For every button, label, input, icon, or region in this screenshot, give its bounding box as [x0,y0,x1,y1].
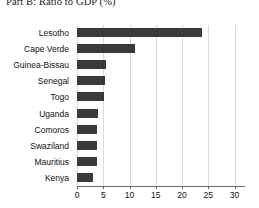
y-axis-tick-label: Swaziland [0,138,73,154]
x-axis-tick-label: 5 [93,190,113,200]
y-axis-tick-label: Lesotho [0,25,73,41]
bar [77,157,97,166]
bar-row [77,138,245,154]
y-axis-tick-label: Uganda [0,106,73,122]
bar [77,125,97,134]
x-axis-tick-mark [103,186,104,189]
x-axis-tick-label: 20 [172,190,192,200]
x-axis-tick-label: 10 [120,190,140,200]
bar [77,141,97,150]
x-axis-tick-label: 30 [225,190,245,200]
bar-row [77,89,245,105]
y-axis-tick-label: Guinea-Bissau [0,57,73,73]
bar [77,76,105,85]
bar-row [77,106,245,122]
bar-row [77,122,245,138]
y-axis-tick-label: Mauritius [0,154,73,170]
bar [77,92,104,101]
x-axis-tick-mark [130,186,131,189]
y-axis-tick-label: Kenya [0,170,73,186]
bar [77,60,106,69]
y-axis-tick-label: Comoros [0,122,73,138]
bar-row [77,57,245,73]
chart-title: Part B: Ratio to GDP (%) [6,0,116,7]
chart-figure: Part B: Ratio to GDP (%) LesothoCape Ver… [0,0,259,208]
x-axis-tick-label: 25 [198,190,218,200]
x-axis-tick-label: 0 [67,190,87,200]
x-axis-tick-mark [182,186,183,189]
y-axis-tick-label: Togo [0,89,73,105]
x-axis-tick-mark [77,186,78,189]
y-axis-tick-label: Senegal [0,73,73,89]
x-axis-tick-mark [235,186,236,189]
bar-row [77,73,245,89]
x-axis-tick-mark [208,186,209,189]
x-axis-tick-label: 15 [146,190,166,200]
bar-row [77,154,245,170]
x-axis-line [77,186,245,187]
bar-row [77,41,245,57]
bar [77,109,98,118]
bar [77,28,202,37]
plot-area [77,25,245,186]
x-axis-tick-mark [156,186,157,189]
bar [77,44,135,53]
y-axis-tick-label: Cape Verde [0,41,73,57]
bar [77,173,93,182]
bar-row [77,170,245,186]
bar-row [77,25,245,41]
